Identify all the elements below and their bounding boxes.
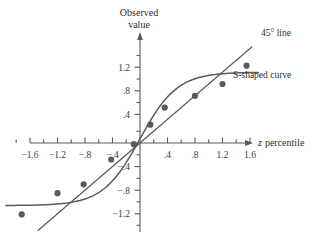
data-point [192,93,198,99]
data-point [108,156,114,162]
y-tick-label: .4 [123,110,130,120]
y-axis-tick-labels: 1.2 .8 .4 −.4 −.8 −1.2 [113,63,130,220]
s-shaped-curve-label: S-shaped curve [233,70,291,80]
y-tick-label: .8 [123,86,130,96]
x-tick-label: .8 [191,150,198,160]
y-axis-title-line1: Observed [120,7,158,18]
x-tick-label: 1.6 [244,150,256,160]
x-axis-title-rest: percentile [265,137,305,148]
x-axis-arrow-icon [245,140,253,146]
x-tick-label: −1.2 [49,150,66,160]
x-axis-title: zpercentile [257,137,305,148]
y-tick-label: 1.2 [118,63,130,73]
x-tick-label: −1.6 [21,150,38,160]
data-point [19,211,25,217]
plot-canvas: Observed value zpercentile [0,0,329,246]
data-point [162,105,168,111]
x-axis-title-italic-z: z [257,137,262,148]
y-tick-label: −.8 [118,186,131,196]
forty-five-degree-line-label: 45° line [261,28,291,38]
y-axis-title-line2: value [128,19,150,30]
data-point [147,122,153,128]
y-axis-arrow-icon [137,32,143,40]
x-tick-label: −.8 [79,150,92,160]
x-tick-label: 1.2 [217,150,229,160]
data-point [243,63,249,69]
data-point [54,190,60,196]
x-tick-label: .4 [164,150,171,160]
scatter-plot-figure: Observed value zpercentile [0,0,329,246]
data-points-group [19,63,250,218]
data-point [131,141,137,147]
y-tick-label: −1.2 [113,209,130,219]
s-shaped-curve [6,72,258,205]
data-point [81,181,87,187]
data-point [219,81,225,87]
